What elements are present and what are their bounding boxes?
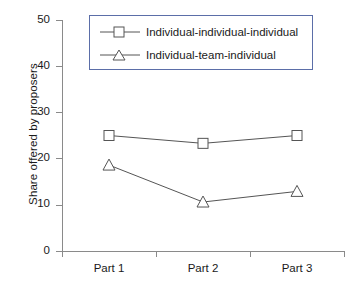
x-tick-mark-1 [156,251,157,257]
legend-entry-individual-individual-individual: Individual-individual-individual [100,24,298,40]
square-marker-icon [100,25,140,39]
legend-label: Individual-individual-individual [146,26,298,38]
x-axis-line [62,251,344,252]
y-axis-line [62,20,63,251]
chart-legend: Individual-individual-individual Individ… [89,15,313,70]
series-1 [104,131,302,149]
y-tick-label-30: 30 [14,106,50,118]
triangle-marker-icon [197,196,209,207]
triangle-marker-icon [291,185,303,196]
x-tick-mark-left [62,251,63,257]
legend-entry-individual-team-individual: Individual-team-individual [100,47,276,63]
y-tick-label-20: 20 [14,152,50,164]
x-tick-mark-right [344,251,345,257]
triangle-marker-icon [100,48,140,62]
y-tick-label-0: 0 [14,245,50,257]
x-tick-mark-2 [250,251,251,257]
line-chart-figure: Share offered by proposers 50 40 30 20 1… [0,0,363,286]
triangle-marker-icon [103,159,115,170]
square-marker-icon [198,138,208,148]
x-tick-label-part-3: Part 3 [262,262,332,274]
y-tick-label-10: 10 [14,198,50,210]
x-tick-label-part-1: Part 1 [74,262,144,274]
square-marker-icon [292,131,302,141]
legend-label: Individual-team-individual [146,49,276,61]
square-marker-icon [104,131,114,141]
y-tick-label-50: 50 [14,14,50,26]
series-line [109,136,297,144]
series-line [109,165,297,202]
x-tick-label-part-2: Part 2 [168,262,238,274]
y-tick-label-40: 40 [14,60,50,72]
series-2 [103,159,303,207]
